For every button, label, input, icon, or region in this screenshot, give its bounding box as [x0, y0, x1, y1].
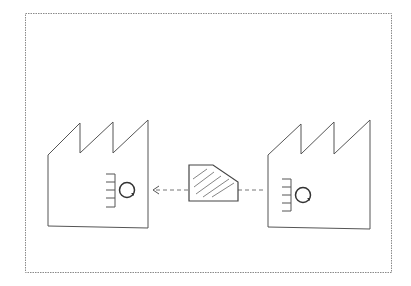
- value-stream-diagram: [0, 0, 411, 286]
- supplier-factory-icon: [268, 120, 370, 229]
- hatched-part-icon: [189, 165, 238, 201]
- customer-factory-icon: [48, 120, 148, 228]
